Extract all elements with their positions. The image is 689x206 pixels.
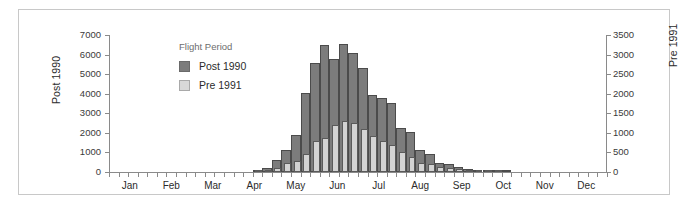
x-axis-tick [214,173,215,177]
chart-legend: Flight Period Post 1990 Pre 1991 [179,42,299,99]
x-axis-tick [281,173,282,177]
x-axis-tick [521,173,522,177]
x-axis-tick [166,173,167,177]
x-axis-tick-label: Aug [411,181,429,191]
x-axis-tick [310,173,311,177]
y-axis-left-tick [105,55,109,56]
bar [332,125,339,172]
bar [409,157,416,172]
x-axis-tick [291,173,292,177]
y-axis-right-tick-label: 2500 [613,69,634,79]
bar [313,141,320,172]
y-axis-right-tick-label: 3000 [613,50,634,60]
x-axis-tick [444,173,445,177]
legend-swatch-icon [179,80,190,91]
y-axis-right-tick [607,55,611,56]
y-axis-left-tick-label: 6000 [80,50,101,60]
x-axis-tick [320,173,321,177]
x-axis-tick [511,173,512,177]
y-axis-left-tick-label: 1000 [80,147,101,157]
x-axis-tick [186,173,187,177]
y-axis-left-tick [105,133,109,134]
x-axis-tick [262,173,263,177]
legend-item-label: Post 1990 [199,61,246,72]
legend-swatch-icon [179,61,190,72]
x-axis-tick [368,173,369,177]
bar [428,164,435,172]
x-axis-tick [530,173,531,177]
x-axis-tick [396,173,397,177]
bar [351,123,358,172]
y-axis-right-tick [607,35,611,36]
y-axis-right-tick-label: 1000 [613,128,634,138]
bar [399,152,406,172]
bar [389,145,396,172]
x-axis-tick-label: Apr [246,181,262,191]
x-axis-tick [454,173,455,177]
y-axis-right-tick [607,74,611,75]
chart-figure: Post 1990 Pre 1991 010002000300040005000… [0,0,689,206]
x-axis-tick [492,173,493,177]
x-axis-tick-label: Jul [372,181,385,191]
x-axis-tick [425,173,426,177]
x-axis-tick [138,173,139,177]
x-axis-tick [358,173,359,177]
x-axis-tick [329,173,330,177]
x-axis-tick [435,173,436,177]
legend-title: Flight Period [179,42,299,52]
x-axis-tick [348,173,349,177]
x-axis-tick-label: Jun [329,181,345,191]
bar [380,141,387,172]
y-axis-right-tick-label: 500 [613,147,629,157]
y-axis-right-tick-label: 3500 [613,30,634,40]
x-axis-tick [301,173,302,177]
y-axis-right-tick-label: 0 [613,167,618,177]
x-axis-tick [205,173,206,177]
x-axis-tick [128,173,129,177]
legend-item-label: Pre 1991 [199,80,242,91]
x-axis-tick [550,173,551,177]
x-axis-tick [377,173,378,177]
bar [294,161,301,172]
x-axis-tick [272,173,273,177]
x-axis-tick [569,173,570,177]
y-axis-right-tick-label: 2000 [613,89,634,99]
y-axis-left-tick [105,94,109,95]
y-axis-left-tick-label: 4000 [80,89,101,99]
y-axis-right-title: Pre 1991 [667,24,679,67]
bar [303,154,310,172]
bar [370,136,377,172]
y-axis-left-title: Post 1990 [50,56,62,104]
y-axis-right-tick [607,152,611,153]
bar [342,121,349,172]
x-axis-tick-label: Mar [204,181,221,191]
x-axis-tick [147,173,148,177]
y-axis-right-tick [607,94,611,95]
x-axis-tick [559,173,560,177]
x-axis-tick [415,173,416,177]
x-axis-tick [243,173,244,177]
bar [361,129,368,172]
x-axis-tick [607,173,608,177]
y-axis-right-tick-label: 1500 [613,108,634,118]
x-axis-tick [502,173,503,177]
x-axis-tick-label: Sep [453,181,471,191]
x-axis-tick-label: May [286,181,305,191]
x-axis-tick [483,173,484,177]
y-axis-left-tick [105,35,109,36]
x-axis-tick-label: Dec [577,181,595,191]
x-axis-tick [473,173,474,177]
x-axis-tick-label: Nov [536,181,554,191]
x-axis-tick [119,173,120,177]
x-axis-tick [387,173,388,177]
x-axis-tick [157,173,158,177]
y-axis-right-tick [607,133,611,134]
x-axis-tick-label: Jan [122,181,138,191]
y-axis-left-tick [105,152,109,153]
x-axis-tick [597,173,598,177]
x-axis-tick [540,173,541,177]
x-axis-tick [406,173,407,177]
y-axis-left-tick-label: 3000 [80,108,101,118]
x-axis-tick [463,173,464,177]
x-axis-tick [224,173,225,177]
